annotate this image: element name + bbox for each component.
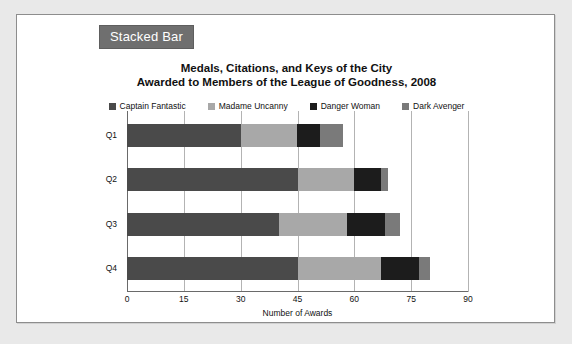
bar-segment[interactable] bbox=[127, 257, 298, 280]
legend-item[interactable]: Madame Uncanny bbox=[208, 101, 288, 111]
chart-title-line-2: Awarded to Members of the League of Good… bbox=[17, 75, 556, 89]
bar-segment[interactable] bbox=[298, 168, 355, 191]
panel-title-badge: Stacked Bar bbox=[99, 25, 194, 49]
legend-label: Danger Woman bbox=[321, 101, 380, 111]
bar-row: Q2 bbox=[127, 165, 468, 193]
bar-segment[interactable] bbox=[279, 213, 347, 236]
screenshot-root: Stacked Bar Medals, Citations, and Keys … bbox=[0, 0, 572, 344]
legend-swatch-icon bbox=[402, 103, 409, 110]
chart-title: Medals, Citations, and Keys of the City … bbox=[17, 61, 556, 89]
x-axis-ticks: 0153045607590 bbox=[127, 294, 468, 308]
bar-segment[interactable] bbox=[127, 124, 241, 147]
y-axis-label: Q1 bbox=[106, 130, 117, 140]
bar-row: Q1 bbox=[127, 121, 468, 149]
x-axis-title: Number of Awards bbox=[127, 308, 468, 318]
legend-item[interactable]: Captain Fantastic bbox=[109, 101, 186, 111]
y-axis-label: Q3 bbox=[106, 219, 117, 229]
stacked-bar[interactable] bbox=[127, 168, 388, 191]
bar-row: Q4 bbox=[127, 254, 468, 282]
stacked-bar[interactable] bbox=[127, 213, 400, 236]
bar-segment[interactable] bbox=[127, 213, 279, 236]
legend-swatch-icon bbox=[310, 103, 317, 110]
gridline bbox=[468, 111, 469, 292]
bar-segment[interactable] bbox=[297, 124, 320, 147]
x-tick-label: 0 bbox=[125, 294, 130, 304]
bar-rows: Q1Q2Q3Q4 bbox=[127, 111, 468, 292]
bar-segment[interactable] bbox=[241, 124, 298, 147]
stacked-bar[interactable] bbox=[127, 124, 343, 147]
bar-segment[interactable] bbox=[385, 213, 400, 236]
x-tick-label: 90 bbox=[463, 294, 472, 304]
x-tick-label: 60 bbox=[350, 294, 359, 304]
legend-item[interactable]: Dark Avenger bbox=[402, 101, 464, 111]
x-tick-label: 15 bbox=[179, 294, 188, 304]
bar-segment[interactable] bbox=[347, 213, 385, 236]
bar-segment[interactable] bbox=[381, 257, 419, 280]
chart-card: Stacked Bar Medals, Citations, and Keys … bbox=[16, 14, 555, 323]
bar-segment[interactable] bbox=[127, 168, 298, 191]
chart-legend: Captain FantasticMadame UncannyDanger Wo… bbox=[17, 101, 556, 111]
x-tick-label: 30 bbox=[236, 294, 245, 304]
bar-row: Q3 bbox=[127, 210, 468, 238]
bar-segment[interactable] bbox=[381, 168, 389, 191]
plot-area: Q1Q2Q3Q4 bbox=[127, 111, 468, 292]
legend-swatch-icon bbox=[109, 103, 116, 110]
bar-segment[interactable] bbox=[320, 124, 343, 147]
legend-item[interactable]: Danger Woman bbox=[310, 101, 380, 111]
x-tick-label: 75 bbox=[406, 294, 415, 304]
legend-swatch-icon bbox=[208, 103, 215, 110]
stacked-bar[interactable] bbox=[127, 257, 430, 280]
y-axis-label: Q2 bbox=[106, 174, 117, 184]
bar-segment[interactable] bbox=[419, 257, 430, 280]
bar-segment[interactable] bbox=[298, 257, 381, 280]
legend-label: Madame Uncanny bbox=[219, 101, 288, 111]
chart-title-line-1: Medals, Citations, and Keys of the City bbox=[17, 61, 556, 75]
bar-segment[interactable] bbox=[354, 168, 381, 191]
y-axis-label: Q4 bbox=[106, 263, 117, 273]
legend-label: Dark Avenger bbox=[413, 101, 464, 111]
x-tick-label: 45 bbox=[293, 294, 302, 304]
legend-label: Captain Fantastic bbox=[120, 101, 186, 111]
x-axis-line bbox=[127, 291, 468, 292]
